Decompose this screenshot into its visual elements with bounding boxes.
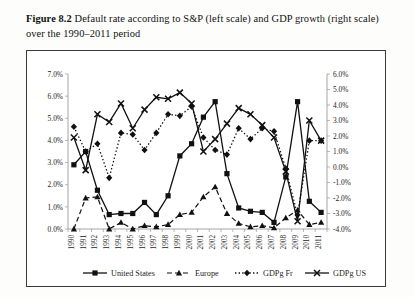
- series-line: [74, 187, 321, 229]
- data-point-marker: [71, 123, 77, 130]
- x-axis-tick-label: 2002: [209, 235, 217, 250]
- x-axis-tick-label: 1990: [68, 235, 76, 250]
- data-point-marker: [118, 219, 124, 225]
- data-point-marker: [236, 220, 242, 226]
- left-axis-tick-label: 4.0%: [48, 136, 63, 145]
- left-axis-tick-label: 2.0%: [48, 180, 63, 189]
- data-point-marker: [141, 222, 147, 228]
- x-axis-tick-label: 2000: [186, 235, 194, 250]
- data-point-marker: [295, 99, 300, 104]
- data-point-marker: [107, 212, 112, 217]
- chart-legend: United StatesEuropeGDPg FrGDPg US: [83, 269, 366, 278]
- x-axis-tick-label: 2003: [221, 235, 229, 250]
- data-point-marker: [71, 135, 77, 141]
- right-axis-tick-label: -4.0%: [333, 225, 351, 234]
- left-axis-tick-label: 5.0%: [48, 114, 63, 123]
- left-axis-tick-label: 6.0%: [48, 92, 63, 101]
- x-axis-tick-label: 1996: [139, 235, 147, 250]
- x-axis-tick-label: 1997: [150, 235, 158, 250]
- data-point-marker: [154, 212, 159, 217]
- figure-frame: 0.0%1.0%2.0%3.0%4.0%5.0%6.0%7.0%-4.0%-3.…: [26, 50, 386, 287]
- x-axis-tick-label: 2011: [315, 235, 323, 250]
- data-point-marker: [177, 211, 183, 217]
- series-united-states: [71, 99, 323, 225]
- data-point-marker: [200, 134, 206, 141]
- left-axis-tick-label: 0.0%: [48, 225, 63, 234]
- legend-label: GDPg US: [333, 269, 366, 278]
- data-point-marker: [201, 115, 206, 120]
- right-axis-tick-label: 6.0%: [333, 70, 348, 79]
- data-point-marker: [165, 193, 170, 198]
- data-point-marker: [271, 220, 276, 225]
- data-point-marker: [92, 270, 97, 275]
- figure-caption: Figure 8.2 Default rate according to S&P…: [26, 11, 384, 41]
- x-axis-tick-label: 2008: [280, 235, 288, 250]
- data-point-marker: [212, 147, 218, 154]
- data-point-marker: [189, 141, 194, 146]
- data-point-marker: [236, 205, 241, 210]
- data-point-marker: [236, 105, 242, 111]
- left-axis-tick-label: 1.0%: [48, 203, 63, 212]
- chart-canvas: 0.0%1.0%2.0%3.0%4.0%5.0%6.0%7.0%-4.0%-3.…: [27, 51, 385, 286]
- data-point-marker: [283, 215, 289, 221]
- data-point-marker: [118, 211, 123, 216]
- right-axis-tick-label: -1.0%: [333, 178, 351, 187]
- figure-page: Figure 8.2 Default rate according to S&P…: [0, 0, 414, 297]
- right-axis-tick-label: 0.0%: [333, 163, 348, 172]
- data-point-marker: [212, 184, 218, 190]
- data-point-marker: [142, 200, 147, 205]
- data-point-marker: [224, 171, 229, 176]
- right-axis-tick-label: 2.0%: [333, 132, 348, 141]
- series-line: [74, 93, 321, 222]
- data-point-marker: [318, 219, 324, 225]
- x-axis-tick-label: 2001: [197, 235, 205, 250]
- x-axis-tick-label: 2004: [233, 235, 241, 250]
- x-axis-tick-label: 2010: [303, 235, 311, 250]
- data-point-marker: [271, 128, 277, 135]
- data-point-marker: [106, 119, 112, 125]
- right-axis-tick-label: 3.0%: [333, 116, 348, 125]
- data-point-marker: [248, 209, 253, 214]
- right-axis-tick-label: -3.0%: [333, 209, 351, 218]
- x-axis-tick-label: 1998: [162, 235, 170, 250]
- data-point-marker: [307, 199, 312, 204]
- x-axis-tick-label: 1995: [127, 235, 135, 250]
- data-point-marker: [213, 99, 218, 104]
- right-axis-tick-label: 5.0%: [333, 85, 348, 94]
- data-point-marker: [224, 121, 230, 127]
- data-point-marker: [130, 211, 135, 216]
- data-point-marker: [177, 153, 182, 158]
- data-point-marker: [118, 100, 124, 106]
- data-point-marker: [118, 130, 124, 137]
- legend-label: United States: [111, 269, 155, 278]
- x-axis-tick-label: 2007: [268, 235, 276, 250]
- series-gdpg-fr: [71, 103, 324, 218]
- data-point-marker: [244, 270, 250, 277]
- data-point-marker: [259, 222, 265, 228]
- right-axis-tick-label: 1.0%: [333, 147, 348, 156]
- data-point-marker: [247, 111, 253, 117]
- x-axis-tick-label: 2009: [292, 235, 300, 250]
- figure-caption-text: Default rate according to S&P (left scal…: [26, 13, 379, 39]
- legend-label: Europe: [195, 269, 219, 278]
- data-point-marker: [130, 131, 136, 138]
- x-axis-tick-label: 1992: [91, 235, 99, 250]
- x-axis-tick-label: 2005: [244, 235, 252, 250]
- data-point-marker: [71, 162, 76, 167]
- legend-label: GDPg Fr: [263, 269, 293, 278]
- data-point-marker: [95, 188, 100, 193]
- series-europe: [71, 184, 324, 232]
- data-point-marker: [224, 210, 230, 216]
- figure-caption-label: Figure 8.2: [26, 13, 72, 24]
- data-point-marker: [212, 136, 218, 142]
- data-point-marker: [319, 210, 324, 215]
- data-point-marker: [130, 125, 136, 131]
- right-axis-tick-label: 4.0%: [333, 101, 348, 110]
- data-point-marker: [236, 125, 242, 132]
- data-point-marker: [106, 175, 112, 182]
- left-axis-tick-label: 7.0%: [48, 70, 63, 79]
- x-axis-tick-label: 2006: [256, 235, 264, 250]
- x-axis-tick-label: 1999: [174, 235, 182, 250]
- left-axis-tick-label: 3.0%: [48, 158, 63, 167]
- data-point-marker: [94, 140, 100, 147]
